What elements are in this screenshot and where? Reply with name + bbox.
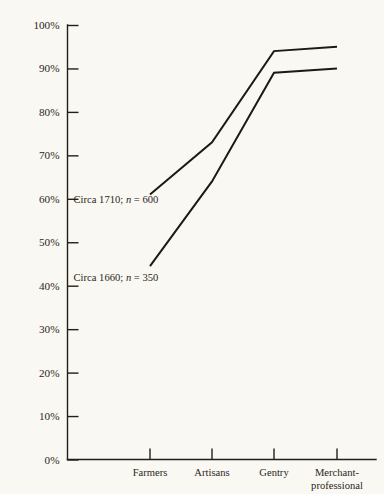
y-axis-tick-label: 70% bbox=[39, 149, 60, 161]
y-axis-tick-label: 50% bbox=[39, 236, 60, 248]
x-axis-tick-label: Merchant- bbox=[315, 467, 360, 478]
y-axis-tick-label: 100% bbox=[33, 19, 59, 31]
x-axis-tick-label: Artisans bbox=[194, 467, 229, 478]
y-axis-tick-label: 20% bbox=[39, 367, 60, 379]
chart-figure: 0%10%20%30%40%50%60%70%80%90%100% Farmer… bbox=[0, 0, 384, 494]
y-axis-tick-label: 0% bbox=[45, 454, 60, 466]
x-axis-tick-label: Gentry bbox=[259, 467, 289, 478]
y-axis-tick-labels: 0%10%20%30%40%50%60%70%80%90%100% bbox=[33, 19, 59, 466]
series-label-1660: Circa 1660; n = 350 bbox=[74, 272, 159, 283]
x-axis-tick-labels: FarmersArtisansGentryMerchant-profession… bbox=[133, 467, 363, 491]
y-axis-tick-marks bbox=[68, 26, 79, 461]
series-line-1660 bbox=[150, 68, 337, 266]
y-axis-tick-label: 40% bbox=[39, 280, 60, 292]
y-axis-tick-label: 80% bbox=[39, 106, 60, 118]
y-axis-tick-label: 60% bbox=[39, 193, 60, 205]
line-chart: 0%10%20%30%40%50%60%70%80%90%100% Farmer… bbox=[0, 0, 384, 494]
x-axis-tick-label: professional bbox=[311, 480, 363, 491]
series-line-1710 bbox=[150, 47, 337, 195]
y-axis-tick-label: 30% bbox=[39, 323, 60, 335]
x-axis-tick-marks bbox=[150, 449, 337, 460]
y-axis-tick-label: 10% bbox=[39, 410, 60, 422]
data-series-group bbox=[150, 47, 337, 266]
x-axis-tick-label: Farmers bbox=[133, 467, 168, 478]
chart-axes bbox=[68, 25, 377, 460]
y-axis-tick-label: 90% bbox=[39, 62, 60, 74]
series-label-1710: Circa 1710; n = 600 bbox=[74, 194, 159, 205]
series-annotations: Circa 1710; n = 600Circa 1660; n = 350 bbox=[74, 194, 159, 283]
